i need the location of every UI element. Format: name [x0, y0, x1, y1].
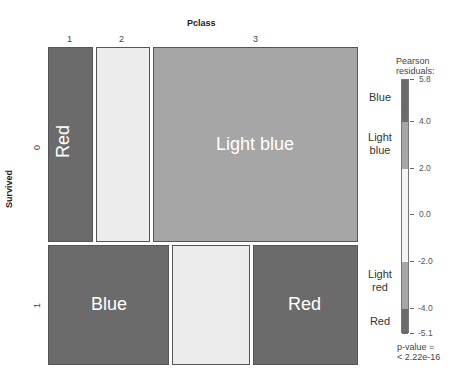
legend-tick-mark [410, 308, 414, 309]
tile-survived1-class1: Blue [48, 245, 169, 365]
p-value: p-value = < 2.22e-16 [397, 342, 440, 362]
y-tick-0: 0 [32, 145, 42, 150]
legend-seg-light-red [402, 262, 408, 309]
legend-name-red: Red [364, 315, 396, 328]
tile-label: Red [53, 125, 74, 158]
legend-tick-label: 0.0 [419, 209, 431, 219]
tile-label: Light blue [216, 134, 294, 155]
legend-tick-label: -4.0 [418, 303, 433, 313]
legend-tick-mark [410, 121, 414, 122]
y-axis-title: Survived [4, 170, 14, 208]
legend-seg-neutral [402, 169, 408, 262]
legend-tick-label: 4.0 [419, 116, 431, 126]
tile-survived1-class3: Red [253, 245, 358, 365]
legend-color-bar [401, 79, 409, 333]
x-tick-2: 2 [119, 34, 124, 44]
legend-name-light-blue: Light blue [364, 131, 396, 157]
tile-survived0-class1: Red [48, 47, 93, 242]
legend-name-light-red-line1: Light [364, 268, 396, 281]
legend-name-light-blue-line1: Light [364, 131, 396, 144]
legend-title-line1: Pearson [396, 56, 435, 66]
legend-tick-mark [410, 261, 414, 262]
x-axis-title: Pclass [187, 18, 216, 28]
legend-tick-label: 5.8 [419, 74, 431, 84]
legend-seg-light-blue [402, 122, 408, 169]
legend-name-blue: Blue [364, 91, 396, 104]
legend-tick-mark [410, 79, 414, 80]
legend-name-light-blue-line2: blue [364, 144, 396, 157]
tile-survived1-class2 [172, 245, 250, 365]
x-tick-3: 3 [253, 34, 258, 44]
legend-tick-label: 2.0 [419, 163, 431, 173]
legend-tick-mark [410, 214, 414, 215]
tile-survived0-class2 [96, 47, 150, 242]
tile-label: Red [288, 294, 321, 315]
tile-survived0-class3: Light blue [153, 47, 358, 242]
legend-seg-red [402, 309, 408, 334]
p-value-line2: < 2.22e-16 [397, 352, 440, 362]
y-tick-1: 1 [32, 303, 42, 308]
x-tick-1: 1 [67, 34, 72, 44]
legend-title: Pearson residuals: [396, 56, 435, 76]
legend-name-light-red: Light red [364, 268, 396, 294]
tile-label: Blue [91, 294, 127, 315]
legend-name-light-red-line2: red [364, 281, 396, 294]
legend-seg-blue [402, 80, 408, 122]
legend-tick-label: -5.1 [418, 328, 433, 338]
p-value-line1: p-value = [397, 342, 440, 352]
legend-tick-mark [410, 333, 414, 334]
legend-tick-label: -2.0 [418, 256, 433, 266]
legend-tick-mark [410, 168, 414, 169]
